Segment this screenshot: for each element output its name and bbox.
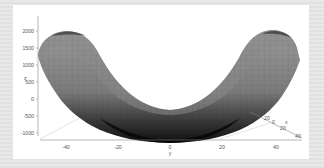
x-tick-label: 0 (272, 119, 275, 125)
y-tick-label: -40 (62, 144, 70, 150)
z-tick-label: -500 (24, 113, 34, 119)
x-tick-label: 20 (280, 125, 286, 131)
x-tick-label: 40 (256, 111, 262, 117)
y-tick-label: -20 (114, 144, 122, 150)
z-tick-label: 500 (25, 79, 34, 85)
x-axis: 40 20 0 20 40 x (250, 111, 302, 139)
y-tick-label: 20 (219, 144, 225, 150)
x-tick-label: 20 (264, 115, 270, 121)
x-tick-label: 40 (295, 133, 301, 139)
z-tick-label: 0 (31, 96, 34, 102)
z-axis: 2000 1500 1000 500 0 -500 -1000 z (21, 16, 38, 136)
x-axis-title: x (285, 119, 288, 125)
z-tick-label: 1500 (22, 45, 34, 51)
z-tick-label: 2000 (22, 28, 34, 34)
y-axis-title: y (169, 150, 172, 156)
y-tick-label: 40 (273, 144, 279, 150)
surface-plot: 2000 1500 1000 500 0 -500 -1000 z -40 -2… (0, 0, 324, 168)
z-tick-label: 1000 (22, 62, 34, 68)
z-axis-title: z (24, 75, 27, 81)
z-tick-label: -1000 (21, 130, 34, 136)
